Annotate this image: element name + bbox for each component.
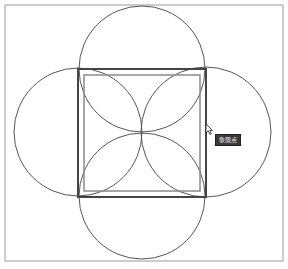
snap-tooltip: 象限点 — [215, 134, 241, 146]
drawing-canvas[interactable] — [0, 0, 288, 269]
